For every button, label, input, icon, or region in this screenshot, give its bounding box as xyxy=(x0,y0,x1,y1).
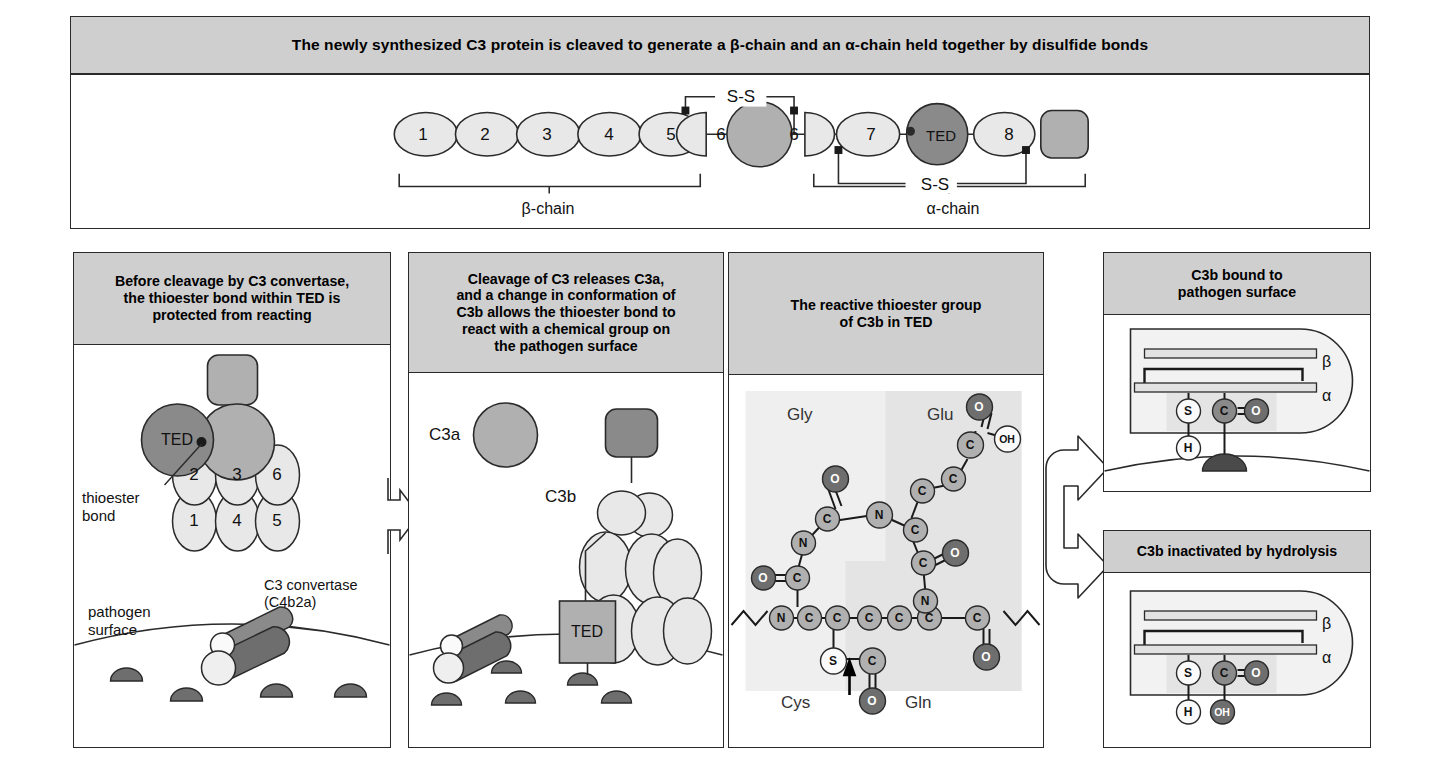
panel-before-cleavage: Before cleavage by C3 convertase, the th… xyxy=(73,252,391,748)
panel1-domain-3: 3 xyxy=(232,465,241,485)
panel-c3b-bound: C3b bound to pathogen surface xyxy=(1103,252,1371,492)
chain-ted-label: TED xyxy=(926,127,956,144)
atom-n-1: N xyxy=(777,611,786,625)
panel1-domain-2: 2 xyxy=(189,465,198,485)
atom-o-6: O xyxy=(981,650,990,664)
panel-c3b-bound-header: C3b bound to pathogen surface xyxy=(1104,253,1370,315)
panel-cleavage: Cleavage of C3 releases C3a, and a chang… xyxy=(408,252,724,748)
panel-thioester-chemistry: The reactive thioester group of C3b in T… xyxy=(728,252,1044,748)
panel5-atom-oh: OH xyxy=(1214,706,1230,718)
atom-c-9: C xyxy=(868,654,877,668)
panel4-alpha-label: α xyxy=(1322,387,1331,405)
atom-n-2: N xyxy=(799,536,808,550)
panel1-domain-5: 5 xyxy=(272,511,281,531)
atom-o-5: O xyxy=(950,546,959,560)
panel5-atom-h: H xyxy=(1184,705,1193,719)
panel5-atom-o: O xyxy=(1251,666,1260,680)
panel5-atom-s: S xyxy=(1184,666,1192,680)
chain-domain-label-1: 1 xyxy=(418,125,427,145)
chain-domain-label-6b: 6 xyxy=(789,125,798,145)
residue-label-cys: Cys xyxy=(781,693,810,713)
atom-o-2: O xyxy=(830,472,839,486)
atom-c-12: C xyxy=(949,472,958,486)
residue-label-gln: Gln xyxy=(905,693,931,713)
thioester-structure-svg xyxy=(729,375,1043,747)
panel1-ted-label: TED xyxy=(161,431,193,449)
panel1-domain-4: 4 xyxy=(232,511,241,531)
atom-c-14: C xyxy=(919,556,928,570)
chain-domain-label-5: 5 xyxy=(666,125,675,145)
panel4-atom-h: H xyxy=(1184,441,1193,455)
chain-domain-label-6: 6 xyxy=(716,125,725,145)
atom-c-8: C xyxy=(823,512,832,526)
atom-c-1: C xyxy=(805,611,814,625)
atom-n-4: N xyxy=(921,594,930,608)
chain-diagram-panel: 1 2 3 4 5 6 6 7 TED 8 S-S S-S β-chain α-… xyxy=(70,74,1370,229)
diagram-root: The newly synthesized C3 protein is clea… xyxy=(0,0,1439,771)
atom-c-7: C xyxy=(793,571,802,585)
top-banner-title: The newly synthesized C3 protein is clea… xyxy=(71,17,1369,73)
atom-o-3: O xyxy=(867,694,876,708)
chain-c3a-circle xyxy=(727,102,792,167)
atom-c-13: C xyxy=(966,438,975,452)
panel4-atom-c: C xyxy=(1220,404,1229,418)
atom-c-5: C xyxy=(925,611,934,625)
panel-cleavage-header: Cleavage of C3 releases C3a, and a chang… xyxy=(409,253,723,373)
chain-domain-label-3: 3 xyxy=(542,125,551,145)
disulfide-top-label: S-S xyxy=(727,87,755,107)
c3a-label: C3a xyxy=(429,425,460,445)
residue-label-glu: Glu xyxy=(927,405,953,425)
chain-domain-label-2: 2 xyxy=(480,125,489,145)
atom-c-6: C xyxy=(973,611,982,625)
chain-domain-label-7: 7 xyxy=(866,125,875,145)
panel1-domain-1: 1 xyxy=(189,511,198,531)
atom-c-11: C xyxy=(918,484,927,498)
panel4-atom-o: O xyxy=(1251,404,1260,418)
panel5-beta-label: β xyxy=(1322,615,1331,633)
c3b-label: C3b xyxy=(545,487,576,507)
top-banner-panel: The newly synthesized C3 protein is clea… xyxy=(70,16,1370,74)
atom-c-10: C xyxy=(911,523,920,537)
chain-diagram-svg xyxy=(71,75,1369,228)
panel5-alpha-label: α xyxy=(1322,649,1331,667)
atom-oh: OH xyxy=(999,433,1015,445)
chain-domain-label-8: 8 xyxy=(1004,125,1013,145)
atom-c-4: C xyxy=(895,611,904,625)
atom-o-1: O xyxy=(758,571,767,585)
panel-c3b-inactivated-header: C3b inactivated by hydrolysis xyxy=(1104,531,1370,573)
atom-s: S xyxy=(829,654,837,668)
panel-c3b-inactivated: C3b inactivated by hydrolysis xyxy=(1103,530,1371,748)
beta-chain-bracket-label: β-chain xyxy=(522,200,575,218)
atom-c-2: C xyxy=(833,611,842,625)
panel2-ted-label: TED xyxy=(571,623,603,641)
panel5-atom-c: C xyxy=(1220,666,1229,680)
disulfide-bottom-label: S-S xyxy=(921,175,949,195)
c3-convertase-label: C3 convertase (C4b2a) xyxy=(264,577,358,612)
panel4-atom-s: S xyxy=(1184,404,1192,418)
panel-before-cleavage-header: Before cleavage by C3 convertase, the th… xyxy=(74,253,390,345)
pathogen-surface-label: pathogen surface xyxy=(88,603,151,639)
chain-domain-label-4: 4 xyxy=(604,125,613,145)
thioester-bond-label: thioester bond xyxy=(82,489,140,525)
alpha-chain-bracket-label: α-chain xyxy=(927,200,980,218)
panel-thioester-chemistry-header: The reactive thioester group of C3b in T… xyxy=(729,253,1043,375)
atom-n-3: N xyxy=(875,508,884,522)
atom-o-4: O xyxy=(974,400,983,414)
c3a-circle xyxy=(474,403,538,467)
panel1-illustration xyxy=(74,345,390,747)
chain-domain-6b xyxy=(805,113,835,156)
residue-label-gly: Gly xyxy=(787,405,813,425)
atom-c-3: C xyxy=(865,611,874,625)
panel1-domain-6: 6 xyxy=(272,465,281,485)
panel4-beta-label: β xyxy=(1322,353,1331,371)
